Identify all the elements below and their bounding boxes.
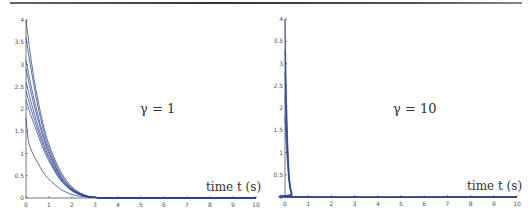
y-tick-label: 2 [279,104,283,111]
x-tick-label: 3 [353,200,357,207]
y-tick-label: 2.5 [273,82,283,89]
annotation-gamma-10: γ = 10 [393,101,436,116]
y-tick-label: 3 [279,60,283,67]
x-tick-label: 6 [422,200,426,207]
x-tick-label: 2 [329,200,333,207]
x-axis-label-right: time t (s) [467,179,522,193]
x-tick-label: 1 [306,200,310,207]
y-tick-label: 1 [279,149,283,156]
x-tick-label: 7 [445,200,449,207]
x-tick-label: 5 [399,200,403,207]
x-tick-label: 9 [492,200,496,207]
x-tick-label: 0 [283,200,287,207]
y-tick-label: 4 [279,15,283,22]
x-tick-label: 4 [376,200,380,207]
x-tick-label: 8 [469,200,473,207]
trajectory-line [279,50,517,197]
y-tick-label: 1.5 [273,126,283,133]
x-tick-label: 10 [513,200,521,207]
y-tick-label: 3.5 [273,37,283,44]
chart-gamma-10: 01234567891000.511.522.533.54 γ = 10 tim… [0,0,532,218]
y-tick-label: 0.5 [273,171,283,178]
